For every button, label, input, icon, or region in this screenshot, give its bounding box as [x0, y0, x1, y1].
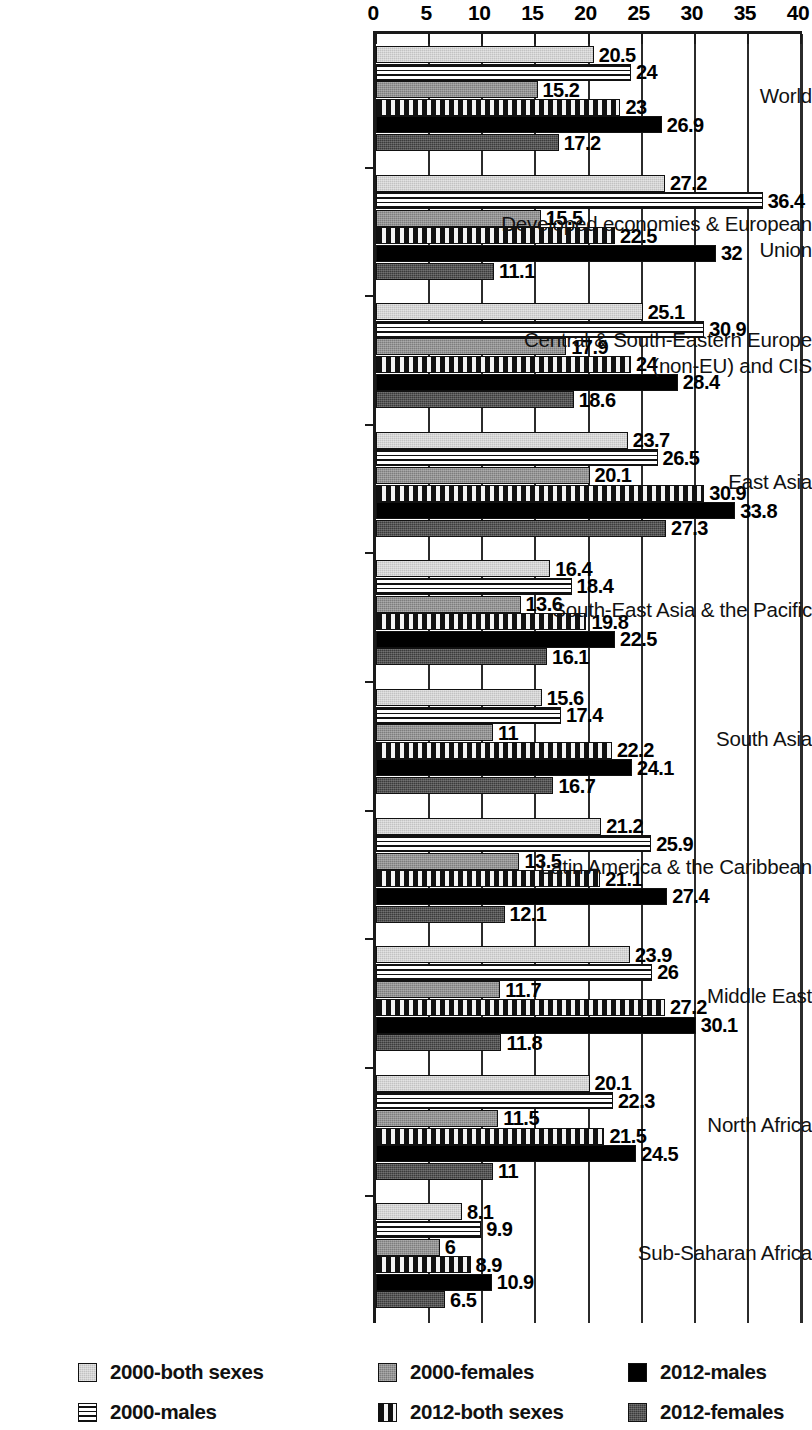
bar-row: 20.1 [376, 1075, 801, 1092]
bar-row: 27.3 [376, 520, 801, 537]
category-axis-tick [365, 1067, 376, 1069]
bar-row: 9.9 [376, 1221, 801, 1238]
bar-row: 27.4 [376, 888, 801, 905]
x-axis-tickmark [375, 31, 377, 44]
legend-item[interactable]: 2000-females [378, 1360, 534, 1384]
bar-value-label: 27.4 [669, 885, 709, 908]
bar[interactable] [376, 64, 631, 81]
legend-swatch-icon [628, 1403, 647, 1422]
bar-value-label: 18.6 [576, 388, 616, 411]
bar[interactable] [376, 560, 550, 577]
category-axis-tick [365, 552, 376, 554]
x-tick-label: 5 [421, 0, 432, 26]
bar-value-label: 22.5 [617, 628, 657, 651]
bar[interactable] [376, 1221, 481, 1238]
x-tick-label: 40 [787, 0, 809, 26]
legend-swatch-icon [378, 1403, 397, 1422]
bar[interactable] [376, 116, 662, 133]
bar-row: 23.7 [376, 432, 801, 449]
bar-value-label: 26.9 [664, 113, 704, 136]
category-label-line: Middle East [444, 983, 812, 1009]
bar-row: 21.2 [376, 818, 801, 835]
bar[interactable] [376, 1239, 440, 1256]
category-label-line: Central & South-Eastern Europe [444, 327, 812, 353]
x-axis-tickmark [534, 31, 536, 44]
legend-item[interactable]: 2012-males [628, 1360, 767, 1384]
category-label: North Africa [444, 1112, 812, 1138]
x-tick-label: 20 [574, 0, 596, 26]
x-axis-tickmark [694, 31, 696, 44]
bar-value-label: 18.4 [574, 575, 614, 598]
bar[interactable] [376, 1203, 462, 1220]
bar-row: 8.1 [376, 1203, 801, 1220]
legend-item[interactable]: 2012-females [628, 1400, 784, 1424]
category-label-line: North Africa [444, 1112, 812, 1138]
legend-swatch-icon [78, 1403, 97, 1422]
bar[interactable] [376, 818, 601, 835]
category-label: South Asia [444, 726, 812, 752]
legend-item[interactable]: 2000-males [78, 1400, 217, 1424]
bar[interactable] [376, 303, 643, 320]
bar[interactable] [376, 1163, 493, 1180]
bar-row: 16.7 [376, 777, 801, 794]
x-axis-tickmark [588, 31, 590, 44]
legend-label: 2000-both sexes [110, 1360, 264, 1384]
bar-row: 11.8 [376, 1034, 801, 1051]
bar[interactable] [376, 391, 574, 408]
bar-row: 22.3 [376, 1092, 801, 1109]
bar-value-label: 16.7 [555, 774, 595, 797]
category-label-line: South-East Asia & the Pacific [444, 597, 812, 623]
bar-row: 26.5 [376, 449, 801, 466]
bar[interactable] [376, 777, 553, 794]
x-tick-label: 15 [521, 0, 543, 26]
bar[interactable] [376, 1034, 501, 1051]
bar-value-label: 24.1 [634, 756, 674, 779]
x-axis-tickmark [481, 31, 483, 44]
bar[interactable] [376, 263, 494, 280]
x-axis-tick-labels: 0510152025303540 [373, 0, 798, 28]
bar[interactable] [376, 835, 651, 852]
bar-row: 33.8 [376, 502, 801, 519]
x-axis-tickmark [747, 31, 749, 44]
bar-value-label: 20.5 [596, 43, 636, 66]
bar-row: 26 [376, 964, 801, 981]
legend-item[interactable]: 2000-both sexes [78, 1360, 264, 1384]
bar-row: 11 [376, 1163, 801, 1180]
bar[interactable] [376, 520, 666, 537]
bar-row: 27.2 [376, 175, 801, 192]
legend-label: 2012-males [660, 1360, 767, 1384]
category-axis-tick [365, 295, 376, 297]
bar-row: 25.9 [376, 835, 801, 852]
bar[interactable] [376, 1092, 613, 1109]
category-label-line: Latin America & the Caribbean [444, 854, 812, 880]
category-label: Middle East [444, 983, 812, 1009]
bar-value-label: 26 [654, 961, 678, 984]
bar[interactable] [376, 689, 542, 706]
x-tick-label: 0 [367, 0, 378, 26]
bar[interactable] [376, 946, 630, 963]
category-label-line: (non-EU) and CIS [444, 353, 812, 379]
bar-row: 17.2 [376, 134, 801, 151]
category-label-line: East Asia [444, 469, 812, 495]
category-label: Latin America & the Caribbean [444, 854, 812, 880]
bar-row: 11.1 [376, 263, 801, 280]
bar[interactable] [376, 1291, 445, 1308]
x-axis-tickmark [800, 31, 802, 44]
category-label-line: South Asia [444, 726, 812, 752]
bar[interactable] [376, 175, 665, 192]
bar[interactable] [376, 432, 628, 449]
bar-value-label: 25.1 [645, 300, 685, 323]
bar-row: 24.5 [376, 1145, 801, 1162]
category-axis-tick [365, 424, 376, 426]
bar[interactable] [376, 906, 505, 923]
bar-value-label: 10.9 [494, 1271, 534, 1294]
bar[interactable] [376, 648, 547, 665]
bar[interactable] [376, 707, 561, 724]
bar[interactable] [376, 1075, 590, 1092]
category-axis-tick [365, 681, 376, 683]
bar[interactable] [376, 46, 594, 63]
bar-value-label: 33.8 [737, 499, 777, 522]
bar-row: 18.6 [376, 391, 801, 408]
legend-item[interactable]: 2012-both sexes [378, 1400, 564, 1424]
bar[interactable] [376, 134, 559, 151]
